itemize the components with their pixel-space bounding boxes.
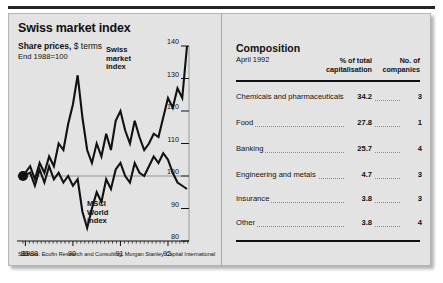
- row-pct-capitalisation: 25.7: [344, 144, 374, 153]
- row-no-companies: 1: [400, 118, 422, 127]
- column-header-pct-line1: % of total: [300, 56, 372, 65]
- y-axis-tick-label: 110: [168, 135, 179, 144]
- row-leader-dots: [236, 126, 420, 127]
- row-sector-name: Other: [236, 218, 257, 227]
- y-axis-tick-label: 130: [167, 70, 179, 79]
- table-row: Engineering and metals4.73: [236, 170, 420, 182]
- row-no-companies: 3: [400, 170, 422, 179]
- table-row: Food27.81: [236, 118, 420, 130]
- row-sector-name: Banking: [236, 144, 265, 153]
- row-pct-capitalisation: 34.2: [344, 92, 374, 101]
- composition-title: Composition: [236, 42, 300, 54]
- composition-date: April 1992: [236, 55, 269, 64]
- chart-pane: Swiss market index Share prices, $ terms…: [9, 14, 221, 267]
- y-axis-tick-label: 80: [171, 232, 179, 241]
- row-sector-name: Engineering and metals: [236, 170, 318, 179]
- series-start-marker: [18, 171, 28, 181]
- row-sector-name: Chemicals and pharmaceuticals: [236, 92, 346, 101]
- row-pct-capitalisation: 27.8: [344, 118, 374, 127]
- column-header-no-line2: companies: [370, 65, 420, 74]
- figure-panel: Swiss market index Share prices, $ terms…: [8, 13, 431, 266]
- column-header-pct-capitalisation: % of total capitalisation: [300, 56, 372, 74]
- row-pct-capitalisation: 4.7: [344, 170, 374, 179]
- row-no-companies: 3: [400, 194, 422, 203]
- row-no-companies: 4: [400, 218, 422, 227]
- y-axis-tick-label: 90: [171, 200, 179, 209]
- table-row: Banking25.74: [236, 144, 420, 156]
- row-no-companies: 4: [400, 144, 422, 153]
- y-axis-tick-label: 140: [167, 37, 179, 46]
- row-no-companies: 3: [400, 92, 422, 101]
- composition-table-pane: Composition April 1992 % of total capita…: [222, 14, 432, 267]
- table-row: Other3.84: [236, 218, 420, 230]
- row-leader-dots: [236, 226, 420, 227]
- table-row: Insurance3.83: [236, 194, 420, 206]
- chart-source-note: Sources: Ecofin Research and Consulting;…: [18, 251, 215, 257]
- chart-plot-svg: 8090100110120130140198889909192: [9, 14, 221, 267]
- top-rule: [8, 6, 435, 9]
- row-sector-name: Food: [236, 118, 255, 127]
- row-pct-capitalisation: 3.8: [344, 194, 374, 203]
- column-header-no-line1: No. of: [370, 56, 420, 65]
- table-rule-top: [236, 80, 420, 82]
- series-line: [23, 46, 187, 179]
- column-header-no-companies: No. of companies: [370, 56, 420, 74]
- row-sector-name: Insurance: [236, 194, 271, 203]
- table-rule-bottom: [236, 240, 420, 242]
- column-header-pct-line2: capitalisation: [300, 65, 372, 74]
- economist-chart-figure: Swiss market index Share prices, $ terms…: [0, 0, 443, 283]
- table-row: Chemicals and pharmaceuticals34.23: [236, 92, 420, 104]
- row-pct-capitalisation: 3.8: [344, 218, 374, 227]
